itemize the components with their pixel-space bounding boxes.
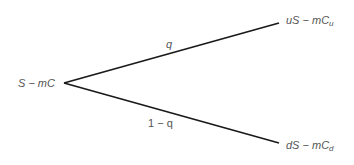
up-probability-text: q [166, 38, 172, 50]
down-branch-line [64, 83, 279, 143]
up-probability-label: q [166, 38, 172, 50]
up-label-subscript: u [329, 19, 333, 28]
down-label-text: dS − mC [286, 139, 329, 151]
up-node-label: uS − mCu [286, 14, 334, 26]
up-branch-line [64, 23, 279, 83]
up-label-text: uS − mC [286, 14, 329, 26]
root-label-text: S − mC [18, 77, 55, 89]
down-probability-text: 1 − q [148, 117, 173, 129]
down-probability-label: 1 − q [148, 117, 173, 129]
root-node-label: S − mC [18, 77, 55, 89]
down-node-label: dS − mCd [286, 139, 334, 151]
down-label-subscript: d [329, 144, 333, 153]
